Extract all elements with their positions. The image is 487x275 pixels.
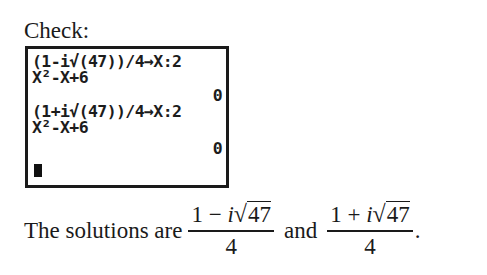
solutions-prefix: The solutions are (24, 218, 182, 244)
calc-line-expression-2: X²-X+6 (32, 120, 222, 136)
calc-line-result-2: 0 (32, 141, 222, 157)
block-cursor-icon (34, 164, 42, 177)
radicand-1: 47 (247, 201, 271, 227)
radicand-2: 47 (386, 201, 410, 227)
solutions-sentence: The solutions are 1 − i√47 4 and 1 + i√4… (24, 196, 420, 266)
numerator-2-left: 1 + (330, 202, 366, 227)
calculator-screen: (1-i√(47))/4→X:2 X²-X+6 0 (1+i√(47))/4→X… (25, 46, 229, 188)
square-root-icon: √ (234, 201, 247, 227)
square-root-icon: √ (373, 201, 386, 227)
solution-fraction-1: 1 − i√47 4 (188, 201, 274, 261)
fraction-1-denominator: 4 (225, 232, 237, 261)
fraction-2-numerator: 1 + i√47 (327, 201, 413, 230)
heading-check: Check: (24, 17, 89, 45)
fraction-1-numerator: 1 − i√47 (188, 201, 274, 230)
numerator-1-left: 1 − (191, 202, 227, 227)
fraction-2-denominator: 4 (364, 232, 376, 261)
solution-fraction-2: 1 + i√47 4 (327, 201, 413, 261)
sentence-period: . (415, 218, 421, 244)
calc-line-expression-1: X²-X+6 (32, 70, 222, 86)
conjunction-and: and (284, 218, 317, 244)
